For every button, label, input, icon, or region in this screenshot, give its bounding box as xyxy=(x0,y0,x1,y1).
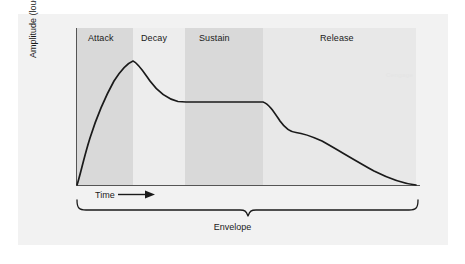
phase-label-attack: Attack xyxy=(88,33,114,43)
adsr-envelope-figure: Attack Decay Sustain Release Amplitude (… xyxy=(0,0,465,264)
envelope-brace-label: Envelope xyxy=(0,222,465,232)
phase-band-release xyxy=(263,28,416,185)
time-arrow-icon xyxy=(118,191,155,199)
envelope-brace-icon xyxy=(77,200,418,216)
y-axis-label: Amplitude (loudness) xyxy=(28,0,38,58)
phase-band-attack xyxy=(77,28,133,185)
phase-bands xyxy=(77,28,416,185)
phase-label-sustain: Sustain xyxy=(199,33,230,43)
watermark-text: Cengage xyxy=(386,72,413,78)
x-axis-label: Time xyxy=(95,190,115,200)
phase-band-decay xyxy=(133,28,185,185)
phase-band-sustain xyxy=(185,28,263,185)
phase-label-release: Release xyxy=(320,33,354,43)
phase-label-decay: Decay xyxy=(141,33,167,43)
